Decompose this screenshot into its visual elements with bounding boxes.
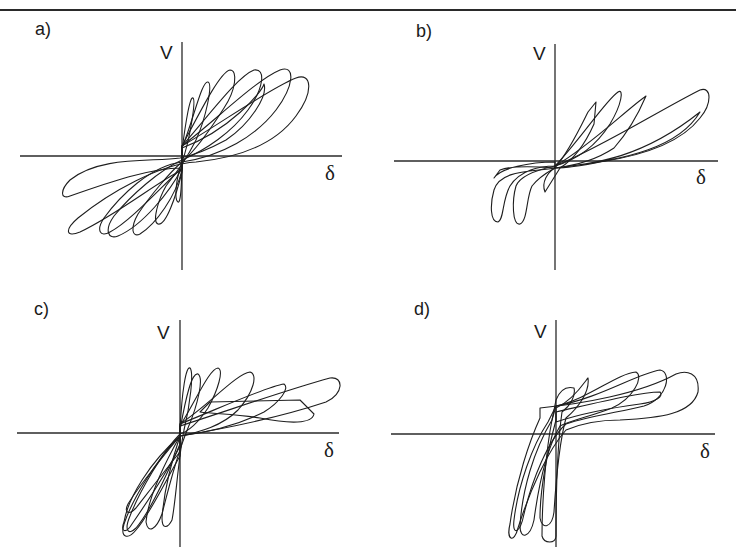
panel-c-x-label: δ: [324, 440, 334, 461]
panel-b-x-label: δ: [696, 167, 706, 188]
panel-b-y-label: V: [533, 44, 546, 63]
hysteresis-loop-cycle-1: [162, 368, 192, 527]
hysteresis-loop-cycle-5: [494, 112, 700, 178]
panel-d-label: d): [414, 300, 430, 318]
hysteresis-figure: [0, 0, 736, 559]
hysteresis-loop-cycle-3: [491, 96, 646, 222]
panel-b-curves: [491, 89, 709, 224]
hysteresis-loop-cycle-3: [520, 372, 639, 535]
panel-b: [394, 44, 718, 270]
panel-b-label: b): [416, 22, 432, 40]
panel-d: [391, 320, 715, 547]
panel-a-y-label: V: [160, 43, 173, 62]
panel-c-y-label: V: [157, 323, 170, 342]
panel-c-curves: [123, 368, 340, 536]
hysteresis-loop-cycle-3: [133, 70, 235, 235]
hysteresis-loop-cycle-5: [509, 372, 698, 538]
panel-c: [17, 320, 340, 547]
panel-a-curves: [63, 69, 309, 237]
panel-d-curves: [509, 370, 698, 542]
hysteresis-loop-cycle-7: [126, 378, 340, 513]
panel-c-label: c): [34, 300, 49, 318]
panel-d-x-label: δ: [700, 441, 710, 462]
panel-d-y-label: V: [534, 322, 547, 341]
hysteresis-loop-cycle-2: [146, 374, 200, 529]
panel-a: [20, 42, 342, 270]
panel-a-label: a): [35, 20, 51, 38]
hysteresis-loop-cycle-5: [100, 69, 291, 234]
hysteresis-loop-cycle-4: [123, 372, 254, 536]
hysteresis-loop-cycle-1: [544, 102, 596, 192]
panel-a-x-label: δ: [325, 163, 335, 184]
